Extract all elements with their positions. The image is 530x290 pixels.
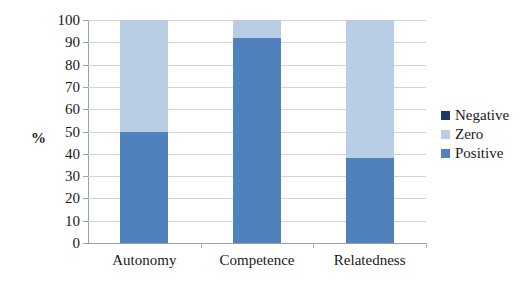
y-tick-label-50: 50 [36, 123, 80, 140]
legend-label-zero: Zero [455, 127, 483, 142]
y-tickmark-0 [83, 243, 88, 244]
chart-legend: NegativeZeroPositive [441, 106, 527, 163]
legend-swatch-zero [441, 130, 450, 139]
y-tick-label-100: 100 [36, 12, 80, 29]
y-tick-label-30: 30 [36, 168, 80, 185]
legend-swatch-negative [441, 111, 450, 120]
x-tickmark-2 [313, 243, 314, 248]
bar-segment-positive[interactable] [346, 158, 394, 243]
y-tick-label-90: 90 [36, 34, 80, 51]
stacked-bar-chart: % 1009080706050403020100 NegativeZeroPos… [0, 0, 530, 290]
y-tickmark-40 [83, 154, 88, 155]
x-axis-label-autonomy: Autonomy [112, 252, 176, 269]
legend-swatch-positive [441, 149, 450, 158]
bar-group-competence[interactable] [233, 20, 281, 243]
y-tick-label-40: 40 [36, 145, 80, 162]
y-tickmark-90 [83, 42, 88, 43]
y-tickmark-100 [83, 20, 88, 21]
bar-segment-zero[interactable] [120, 20, 168, 132]
x-axis-label-competence: Competence [220, 252, 295, 269]
bar-segment-positive[interactable] [233, 38, 281, 243]
y-tickmark-30 [83, 176, 88, 177]
x-axis-label-relatedness: Relatedness [334, 252, 406, 269]
y-tick-label-0: 0 [36, 235, 80, 252]
gridline-0 [88, 243, 426, 244]
legend-label-negative: Negative [455, 108, 509, 123]
y-tickmark-50 [83, 132, 88, 133]
y-tickmark-70 [83, 87, 88, 88]
bar-segment-positive[interactable] [120, 132, 168, 244]
y-tickmark-10 [83, 221, 88, 222]
x-tickmark-3 [426, 243, 427, 248]
y-tick-label-60: 60 [36, 101, 80, 118]
plot-area [88, 20, 426, 243]
y-tickmark-60 [83, 109, 88, 110]
bar-segment-zero[interactable] [346, 20, 394, 158]
bar-segment-zero[interactable] [233, 20, 281, 38]
bar-group-autonomy[interactable] [120, 20, 168, 243]
y-axis-tick-labels: 1009080706050403020100 [36, 0, 80, 290]
y-tick-label-20: 20 [36, 190, 80, 207]
y-tickmark-80 [83, 65, 88, 66]
y-tick-label-10: 10 [36, 212, 80, 229]
legend-label-positive: Positive [455, 146, 503, 161]
x-tickmark-1 [201, 243, 202, 248]
y-tick-label-70: 70 [36, 78, 80, 95]
bar-group-relatedness[interactable] [346, 20, 394, 243]
bar-stack [120, 20, 168, 243]
bar-stack [346, 20, 394, 243]
legend-item-negative[interactable]: Negative [441, 106, 527, 125]
y-tick-label-80: 80 [36, 56, 80, 73]
legend-item-zero[interactable]: Zero [441, 125, 527, 144]
bar-stack [233, 20, 281, 243]
legend-item-positive[interactable]: Positive [441, 144, 527, 163]
y-tickmark-20 [83, 198, 88, 199]
